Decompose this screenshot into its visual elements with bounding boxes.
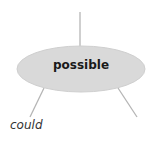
node-label: possible — [17, 58, 145, 72]
edge-bottom-left — [30, 88, 44, 117]
edge-label-could: could — [10, 118, 43, 132]
edge-bottom-right — [118, 88, 137, 117]
